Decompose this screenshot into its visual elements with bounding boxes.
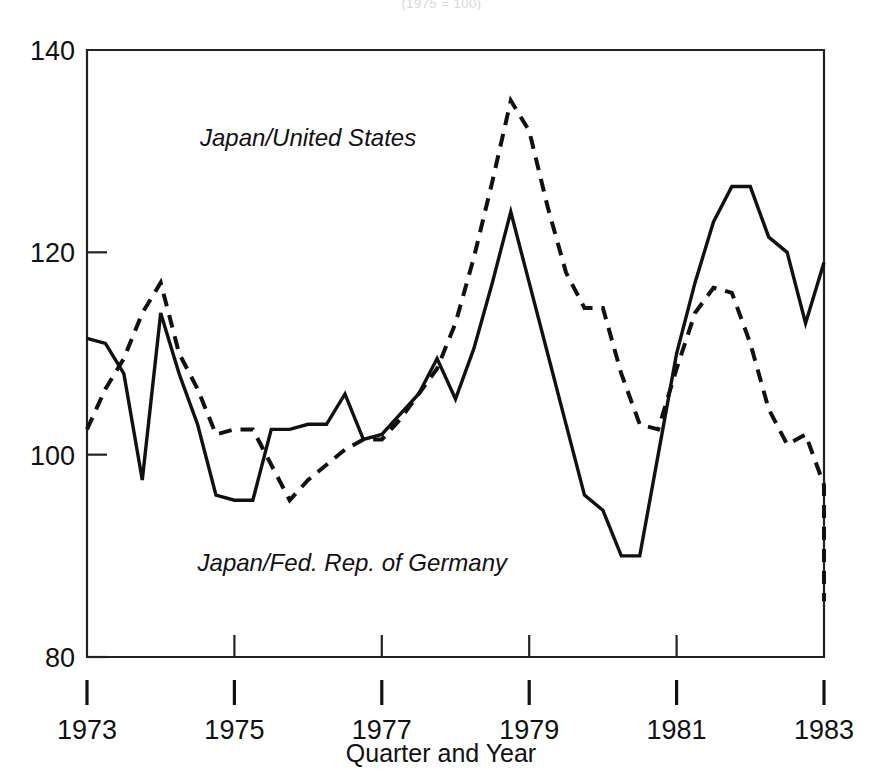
y-tick-label: 80 (45, 643, 75, 673)
x-tick-label: 1981 (647, 715, 707, 745)
cropped-top-caption: (1975 = 100) (0, 0, 883, 10)
y-tick-label: 140 (30, 36, 75, 66)
y-axis-ticks (87, 252, 107, 657)
series-group (87, 101, 824, 602)
y-tick-label: 120 (30, 238, 75, 268)
chart-figure: (1975 = 100) 80100120140 197319751977197… (0, 0, 883, 777)
x-tick-label: 1983 (794, 715, 854, 745)
x-axis-ticks (234, 635, 676, 657)
y-axis-tick-labels: 80100120140 (30, 36, 75, 673)
y-tick-label: 100 (30, 441, 75, 471)
x-axis-title: Quarter and Year (346, 739, 536, 767)
series-annotations: Japan/United StatesJapan/Fed. Rep. of Ge… (197, 124, 509, 576)
x-tick-label: 1973 (57, 715, 117, 745)
series-japan-fed-rep-germany (87, 187, 824, 556)
series-annotation-label: Japan/United States (199, 124, 416, 151)
x-tick-label: 1975 (204, 715, 264, 745)
series-japan-united-states (87, 101, 824, 602)
x-axis-outer-ticks (87, 680, 824, 705)
series-annotation-label: Japan/Fed. Rep. of Germany (197, 549, 509, 576)
line-chart-canvas: 80100120140 197319751977197919811983 Jap… (0, 0, 883, 777)
